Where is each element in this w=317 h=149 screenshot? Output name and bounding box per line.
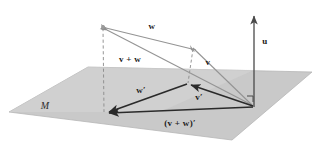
- label-v: v: [206, 57, 211, 67]
- label-v-plus-w-prime: (v + w)′: [164, 118, 196, 128]
- vector-w-line: [106, 28, 196, 50]
- vector-projection-figure: w v + w v u w′ v′ (v + w)′ M: [0, 0, 317, 149]
- diagram-canvas: w v + w v u w′ v′ (v + w)′ M: [0, 0, 317, 149]
- label-plane-M: M: [40, 100, 50, 111]
- label-v-plus-w: v + w: [119, 54, 141, 64]
- label-w-prime: w′: [136, 85, 146, 95]
- plane-M: [9, 67, 312, 140]
- label-v-prime: v′: [195, 92, 203, 102]
- w-tip-node: [101, 25, 105, 29]
- label-w: w: [149, 21, 156, 31]
- label-u: u: [262, 36, 267, 46]
